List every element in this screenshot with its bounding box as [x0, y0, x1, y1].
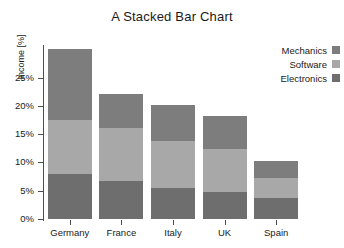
y-axis-tick-label: 15%	[0, 128, 34, 139]
bar-segment-electronics[interactable]	[203, 192, 247, 219]
legend-swatch-icon	[332, 60, 340, 68]
x-axis-tick	[225, 220, 226, 225]
bar-segment-electronics[interactable]	[99, 181, 143, 219]
bar-france[interactable]	[99, 94, 143, 219]
y-axis-tick-label: 5%	[0, 185, 34, 196]
y-axis-tick-label: 25%	[0, 72, 34, 83]
chart-legend: MechanicsSoftwareElectronics	[281, 43, 340, 85]
bar-segment-mechanics[interactable]	[203, 116, 247, 149]
y-axis-tick	[38, 219, 44, 220]
bar-segment-electronics[interactable]	[48, 174, 92, 219]
bar-segment-software[interactable]	[254, 178, 298, 197]
x-axis-tick	[276, 220, 277, 225]
legend-label: Electronics	[281, 73, 327, 84]
x-axis-tick-label-spain: Spain	[236, 227, 316, 238]
bar-italy[interactable]	[151, 105, 195, 219]
x-axis-tick	[121, 220, 122, 225]
bar-segment-mechanics[interactable]	[254, 161, 298, 178]
bar-segment-software[interactable]	[99, 128, 143, 180]
chart-title: A Stacked Bar Chart	[0, 9, 344, 24]
legend-swatch-icon	[332, 46, 340, 54]
bar-segment-software[interactable]	[48, 120, 92, 174]
bar-spain[interactable]	[254, 161, 298, 219]
legend-item-software[interactable]: Software	[281, 57, 340, 71]
legend-label: Mechanics	[282, 45, 327, 56]
bar-segment-mechanics[interactable]	[48, 49, 92, 120]
bar-uk[interactable]	[203, 116, 247, 219]
y-axis-tick-label: 20%	[0, 100, 34, 111]
bar-segment-electronics[interactable]	[151, 188, 195, 219]
bar-segment-mechanics[interactable]	[151, 105, 195, 141]
stacked-bar-chart: A Stacked Bar Chart Income [%] 0%5%10%15…	[0, 0, 344, 248]
bar-germany[interactable]	[48, 49, 92, 219]
y-axis-tick-label: 10%	[0, 156, 34, 167]
bar-segment-software[interactable]	[203, 149, 247, 192]
plot-area	[44, 47, 302, 219]
x-axis-tick	[70, 220, 71, 225]
legend-label: Software	[290, 59, 328, 70]
legend-item-electronics[interactable]: Electronics	[281, 71, 340, 85]
bar-segment-software[interactable]	[151, 141, 195, 189]
legend-item-mechanics[interactable]: Mechanics	[281, 43, 340, 57]
legend-swatch-icon	[332, 74, 340, 82]
bar-segment-mechanics[interactable]	[99, 94, 143, 129]
bar-segment-electronics[interactable]	[254, 198, 298, 220]
y-axis-tick-label: 0%	[0, 213, 34, 224]
x-axis-tick	[173, 220, 174, 225]
